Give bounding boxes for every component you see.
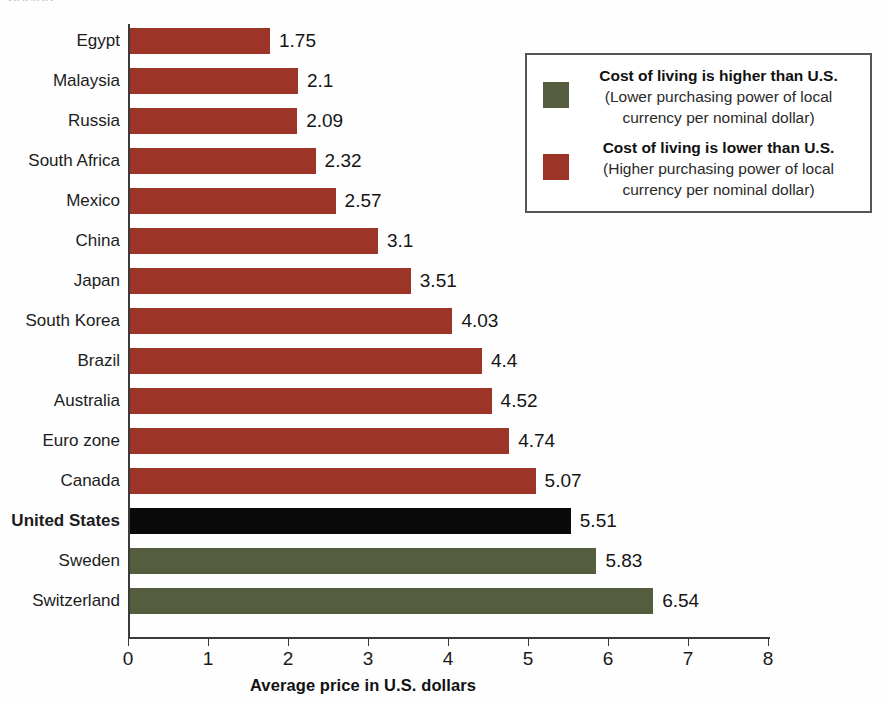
category-label-russia: Russia [0,108,120,134]
bar-value-label: 6.54 [653,588,699,614]
legend-subtitle-line1: (Lower purchasing power of local [571,86,866,107]
bar-united-states [130,508,571,534]
x-axis-tick [128,637,129,646]
bar-value-label: 5.51 [571,508,617,534]
bar-value-label: 5.83 [596,548,642,574]
bar-euro-zone [130,428,509,454]
category-label-switzerland: Switzerland [0,588,120,614]
x-axis-tick-label: 3 [348,648,388,670]
category-label-sweden: Sweden [0,548,120,574]
category-label-canada: Canada [0,468,120,494]
bar-row: Australia4.52 [0,388,890,428]
bar-value-label: 2.1 [298,68,333,94]
legend-subtitle-line2: currency per nominal dollar) [571,179,866,200]
bar-sweden [130,548,596,574]
category-label-japan: Japan [0,268,120,294]
bar-switzerland [130,588,653,614]
x-axis-tick [528,637,529,646]
x-axis-tick [448,637,449,646]
x-axis-tick-label: 8 [748,648,788,670]
bar-south-korea [130,308,452,334]
x-axis-tick [288,637,289,646]
bar-row: China3.1 [0,228,890,268]
bar-value-label: 4.52 [492,388,538,414]
legend-text: Cost of living is lower than U.S.(Higher… [569,137,874,200]
legend-subtitle-line2: currency per nominal dollar) [571,107,866,128]
chart-page: pricing 012345678 Egypt1.75Malaysia2.1Ru… [0,0,890,704]
x-axis-tick-label: 4 [428,648,468,670]
x-axis-tick [688,637,689,646]
category-label-mexico: Mexico [0,188,120,214]
bar-value-label: 2.57 [336,188,382,214]
x-axis-tick [208,637,209,646]
bar-russia [130,108,297,134]
x-axis-tick-label: 5 [508,648,548,670]
bar-row: Brazil4.4 [0,348,890,388]
bar-mexico [130,188,336,214]
bar-value-label: 1.75 [270,28,316,54]
bar-value-label: 4.4 [482,348,517,374]
category-label-australia: Australia [0,388,120,414]
legend-entry: Cost of living is higher than U.S.(Lower… [527,65,874,128]
x-axis-line [128,637,770,639]
bar-value-label: 4.03 [452,308,498,334]
category-label-brazil: Brazil [0,348,120,374]
bar-row: Euro zone4.74 [0,428,890,468]
category-label-malaysia: Malaysia [0,68,120,94]
x-axis-tick [608,637,609,646]
x-axis-tick-label: 7 [668,648,708,670]
x-axis-tick [768,637,769,646]
legend-swatch-green [543,82,569,108]
category-label-euro-zone: Euro zone [0,428,120,454]
x-axis-title: Average price in U.S. dollars [128,676,598,695]
category-label-united-states: United States [0,508,120,534]
bar-row: South Korea4.03 [0,308,890,348]
bar-china [130,228,378,254]
bar-brazil [130,348,482,374]
bar-value-label: 5.07 [536,468,582,494]
x-axis-tick-label: 2 [268,648,308,670]
bar-malaysia [130,68,298,94]
bar-value-label: 3.51 [411,268,457,294]
bar-value-label: 2.09 [297,108,343,134]
bar-canada [130,468,536,494]
bar-row: Japan3.51 [0,268,890,308]
legend-swatch-red [543,154,569,180]
bar-egypt [130,28,270,54]
bar-value-label: 2.32 [316,148,362,174]
bar-south-africa [130,148,316,174]
category-label-egypt: Egypt [0,28,120,54]
bar-australia [130,388,492,414]
category-label-china: China [0,228,120,254]
x-axis-tick [368,637,369,646]
x-axis-tick-label: 6 [588,648,628,670]
bar-row: Sweden5.83 [0,548,890,588]
category-label-south-korea: South Korea [0,308,120,334]
legend-title: Cost of living is lower than U.S. [571,137,866,158]
x-axis-tick-label: 0 [108,648,148,670]
bar-value-label: 4.74 [509,428,555,454]
bar-row: Canada5.07 [0,468,890,508]
legend-text: Cost of living is higher than U.S.(Lower… [569,65,874,128]
bar-row: Switzerland6.54 [0,588,890,628]
legend-entry: Cost of living is lower than U.S.(Higher… [527,137,874,200]
legend-subtitle-line1: (Higher purchasing power of local [571,158,866,179]
chart-legend: Cost of living is higher than U.S.(Lower… [525,53,872,213]
bar-japan [130,268,411,294]
x-axis-tick-label: 1 [188,648,228,670]
legend-title: Cost of living is higher than U.S. [571,65,866,86]
category-label-south-africa: South Africa [0,148,120,174]
bar-row: United States5.51 [0,508,890,548]
bar-value-label: 3.1 [378,228,413,254]
